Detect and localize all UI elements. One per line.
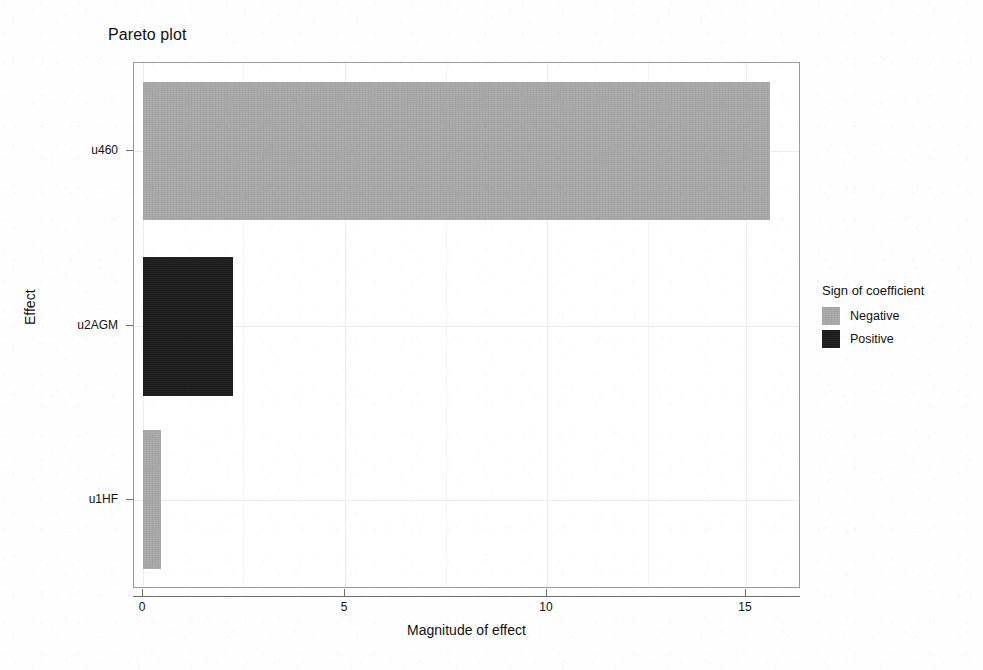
y-axis-title: Effect (22, 289, 38, 325)
page-title: Pareto plot (108, 26, 186, 44)
gridline-major-y-u1HF (134, 500, 799, 501)
y-tick-label-u2AGM: u2AGM (77, 318, 118, 332)
legend-item-negative[interactable]: Negative (822, 307, 972, 325)
x-tick-label-5: 5 (341, 600, 348, 614)
bar-u2AGM[interactable] (143, 257, 233, 396)
bar-u1HF[interactable] (143, 430, 161, 569)
legend: Sign of coefficient Negative Positive (822, 283, 972, 353)
legend-label-positive: Positive (850, 332, 894, 346)
plot-panel (133, 62, 800, 588)
legend-swatch-positive (822, 330, 840, 348)
x-tick-mark-10 (546, 589, 547, 596)
gridline-major-y-u2AGM (134, 326, 799, 327)
y-tick-mark-u1HF (126, 499, 133, 500)
bar-u460[interactable] (143, 82, 770, 220)
y-tick-mark-u460 (126, 150, 133, 151)
pareto-plot-figure: Pareto plot 0 5 10 15 Magnitude of effec… (0, 0, 983, 670)
x-tick-label-10: 10 (539, 600, 552, 614)
x-axis-title: Magnitude of effect (0, 622, 933, 638)
legend-label-negative: Negative (850, 309, 899, 323)
y-tick-mark-u2AGM (126, 325, 133, 326)
x-tick-mark-5 (344, 589, 345, 596)
x-tick-label-15: 15 (738, 600, 751, 614)
x-axis-line (133, 596, 800, 597)
x-tick-mark-15 (745, 589, 746, 596)
legend-title: Sign of coefficient (822, 283, 972, 298)
x-tick-label-0: 0 (139, 600, 146, 614)
x-tick-mark-0 (142, 589, 143, 596)
y-tick-label-u1HF: u1HF (89, 492, 118, 506)
legend-swatch-negative (822, 307, 840, 325)
y-tick-label-u460: u460 (91, 143, 118, 157)
legend-item-positive[interactable]: Positive (822, 330, 972, 348)
